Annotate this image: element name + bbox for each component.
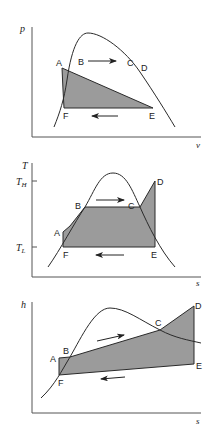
pv-point-B: B	[78, 57, 84, 67]
ts-point-C: C	[128, 201, 135, 211]
thermodynamic-cycle-diagrams: p v A B C D F E T s TH TL A B C D F E	[0, 0, 216, 432]
hs-right-arrow	[97, 335, 124, 341]
ts-point-F: F	[63, 250, 69, 260]
hs-point-F: F	[58, 378, 64, 388]
pv-y-axis-label: p	[19, 23, 25, 34]
hs-x-axis-label: s	[196, 416, 200, 426]
ts-cycle-area	[63, 181, 155, 247]
ts-tick-low-label: TL	[16, 242, 26, 255]
hs-y-axis-label: h	[21, 299, 26, 310]
pv-diagram: p v A B C D F E	[19, 23, 201, 150]
hs-point-D: D	[195, 301, 202, 311]
ts-point-A: A	[54, 228, 60, 238]
hs-point-A: A	[50, 354, 56, 364]
pv-point-C: C	[127, 58, 134, 68]
ts-tick-high-label: TH	[16, 176, 28, 189]
ts-point-B: B	[75, 201, 81, 211]
pv-point-E: E	[149, 111, 155, 121]
ts-point-D: D	[157, 177, 164, 187]
hs-point-B: B	[63, 346, 69, 356]
pv-point-A: A	[56, 58, 62, 68]
ts-y-axis-label: T	[22, 160, 29, 171]
ts-point-E: E	[151, 250, 157, 260]
ts-diagram: T s TH TL A B C D F E	[16, 160, 201, 288]
ts-x-axis-label: s	[196, 278, 200, 288]
hs-left-arrow	[101, 377, 125, 379]
pv-cycle-area	[62, 68, 153, 108]
hs-diagram: h s A B C D F E	[21, 299, 202, 426]
hs-point-E: E	[196, 361, 202, 371]
pv-point-F: F	[63, 111, 69, 121]
pv-point-D: D	[141, 63, 148, 73]
hs-point-C: C	[155, 318, 162, 328]
pv-x-axis-label: v	[196, 140, 200, 150]
